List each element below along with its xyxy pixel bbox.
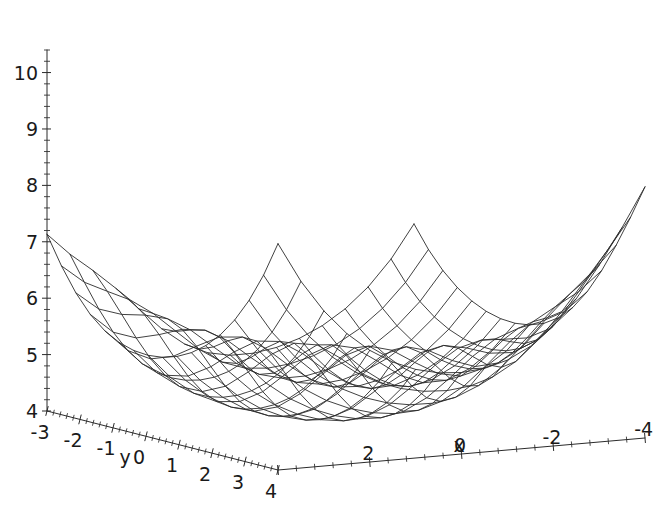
y-tick-label: 4: [265, 480, 277, 502]
surface-plot-figure: 45678910-3-2-101234y20-2-4x: [0, 0, 667, 523]
y-tick-label: 0: [133, 446, 145, 468]
x-tick-major: [278, 465, 279, 475]
mesh-line-u: [61, 249, 428, 368]
z-tick-label: 6: [26, 287, 38, 309]
z-tick-label: 7: [26, 231, 38, 253]
x-tick-minor: [516, 446, 517, 452]
x-tick-minor: [296, 465, 297, 471]
x-tick-minor: [388, 457, 389, 463]
x-tick-minor: [571, 441, 572, 447]
mesh-line-v: [391, 228, 622, 351]
y-tick-label: -1: [97, 437, 116, 459]
x-tick-minor: [351, 461, 352, 467]
mesh-line-v: [368, 265, 599, 369]
x-tick-minor: [608, 438, 609, 444]
x-tick-minor: [535, 445, 536, 451]
mesh-line-u: [76, 271, 443, 379]
y-tick-label: 2: [199, 463, 211, 485]
x-tick-minor: [590, 440, 591, 446]
x-tick-minor: [498, 448, 499, 454]
axes-group: 45678910-3-2-101234y20-2-4x: [14, 50, 653, 502]
x-tick-minor: [333, 462, 334, 468]
mesh-line-v: [208, 341, 439, 417]
mesh-line-v: [322, 326, 553, 387]
y-tick-label: 3: [232, 471, 244, 493]
x-tick-minor: [480, 449, 481, 455]
mesh-line-v: [70, 254, 301, 380]
z-tick-label: 9: [26, 118, 38, 140]
y-axis-name: y: [119, 446, 130, 468]
x-tick-minor: [425, 454, 426, 460]
plot-canvas: 45678910-3-2-101234y20-2-4x: [0, 0, 667, 523]
y-tick-label: -2: [64, 429, 83, 451]
z-tick-label: 4: [26, 400, 38, 422]
mesh-line-v: [414, 187, 645, 325]
z-tick-label: 8: [26, 174, 38, 196]
x-tick-minor: [443, 453, 444, 459]
x-tick-minor: [406, 456, 407, 462]
z-tick-label: 10: [14, 62, 38, 84]
x-tick-label: -2: [542, 426, 561, 448]
x-tick-label: -4: [634, 418, 653, 440]
y-tick-label: -3: [31, 421, 50, 443]
z-tick-label: 5: [26, 344, 38, 366]
mesh-line-u: [90, 288, 457, 385]
surface-mesh: [47, 187, 645, 421]
y-tick-label: 1: [166, 454, 178, 476]
x-tick-minor: [314, 464, 315, 470]
x-tick-minor: [626, 437, 627, 443]
x-tick-label: 2: [362, 442, 374, 464]
x-axis-name: x: [453, 434, 464, 456]
